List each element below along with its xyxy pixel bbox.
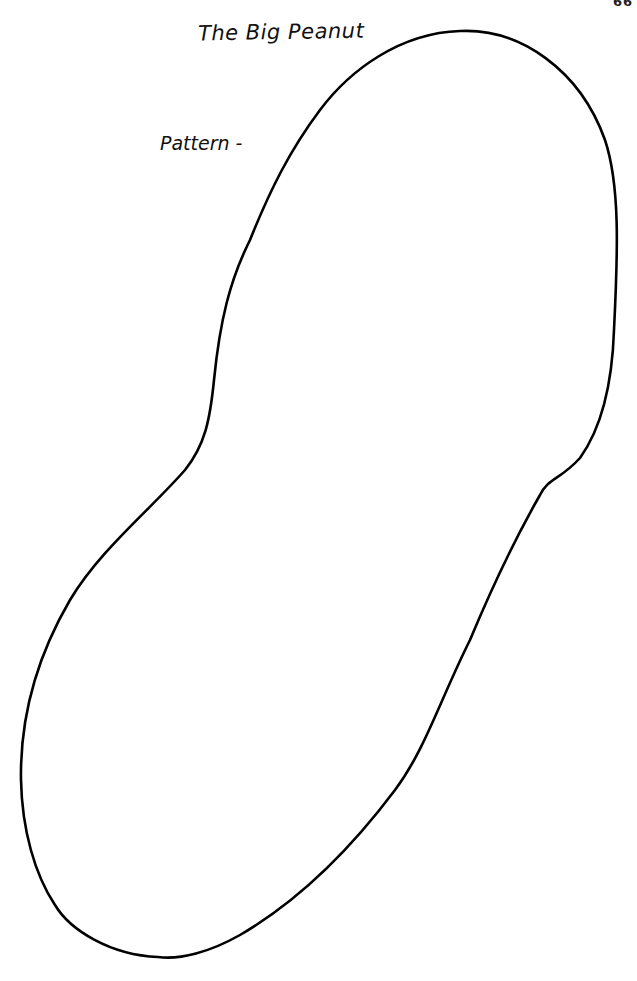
peanut-outline-shape: [0, 0, 637, 981]
peanut-outline-path: [21, 31, 617, 958]
